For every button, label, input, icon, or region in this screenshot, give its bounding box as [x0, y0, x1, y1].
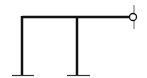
pin-support-icon	[130, 14, 137, 21]
frame-diagram	[0, 0, 147, 78]
